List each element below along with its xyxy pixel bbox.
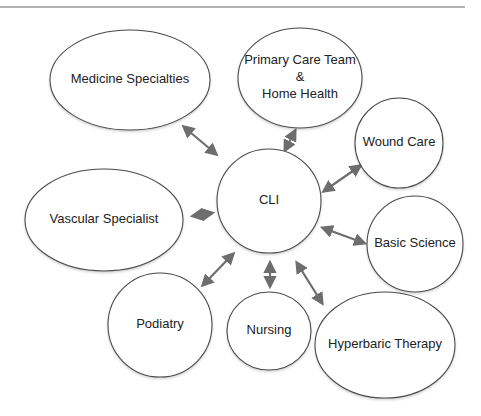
double-arrow-icon-hyperbaric-therapy bbox=[297, 263, 322, 303]
node-label: Hyperbaric Therapy bbox=[328, 336, 442, 351]
node-basic-science: Basic Science bbox=[367, 196, 463, 292]
node-label: Basic Science bbox=[374, 235, 456, 250]
node-label: Vascular Specialist bbox=[50, 211, 159, 226]
double-arrow-icon-podiatry bbox=[203, 254, 233, 285]
node-label: Wound Care bbox=[363, 134, 436, 149]
double-arrow-icon-medicine-specialties bbox=[184, 127, 216, 154]
node-wound-care: Wound Care bbox=[355, 98, 443, 188]
double-arrow-icon-wound-care bbox=[324, 166, 360, 191]
diagram-nodes: Medicine SpecialtiesPrimary Care Team&Ho… bbox=[25, 28, 463, 398]
double-arrow-icon-vascular-specialist bbox=[193, 213, 212, 216]
node-label: Medicine Specialties bbox=[71, 71, 190, 86]
node-nursing: Nursing bbox=[227, 292, 311, 370]
node-label: CLI bbox=[259, 192, 279, 207]
node-label: Home Health bbox=[262, 86, 338, 101]
double-arrow-icon-basic-science bbox=[323, 228, 364, 243]
node-label: Podiatry bbox=[136, 316, 184, 331]
node-hyperbaric-therapy: Hyperbaric Therapy bbox=[315, 292, 455, 398]
node-vascular-specialist: Vascular Specialist bbox=[25, 169, 183, 271]
center-node-cli: CLI bbox=[217, 149, 321, 253]
node-label: Nursing bbox=[247, 322, 292, 337]
node-podiatry: Podiatry bbox=[108, 273, 212, 377]
double-arrow-icon-primary-care-team-home-health bbox=[285, 131, 295, 150]
node-medicine-specialties: Medicine Specialties bbox=[50, 30, 210, 130]
node-primary-care-team-home-health: Primary Care Team&Home Health bbox=[238, 28, 362, 128]
node-label: Primary Care Team bbox=[244, 52, 356, 67]
cli-care-network-diagram: Medicine SpecialtiesPrimary Care Team&Ho… bbox=[0, 0, 481, 416]
node-label: & bbox=[296, 69, 305, 84]
